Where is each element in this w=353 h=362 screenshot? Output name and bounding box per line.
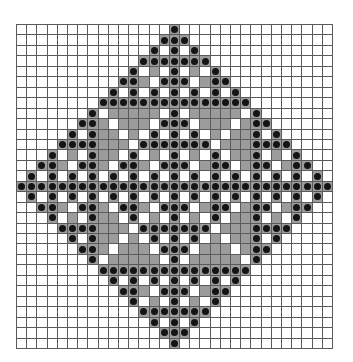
dot-cell	[149, 139, 159, 149]
empty-cell	[87, 55, 97, 65]
shaded-cell	[108, 212, 118, 222]
dot-cell	[250, 139, 260, 149]
empty-cell	[301, 87, 311, 97]
dot-cell	[149, 264, 159, 274]
shaded-cell	[230, 223, 240, 233]
empty-cell	[67, 296, 77, 306]
empty-cell	[250, 264, 260, 274]
dot-cell	[250, 223, 260, 233]
empty-cell	[26, 76, 36, 86]
dot-cell	[67, 139, 77, 149]
empty-cell	[322, 34, 332, 44]
empty-cell	[281, 149, 291, 159]
empty-cell	[250, 87, 260, 97]
dot-cell	[189, 233, 199, 243]
empty-cell	[312, 285, 322, 295]
empty-cell	[16, 97, 26, 107]
dot-cell	[220, 285, 230, 295]
empty-cell	[118, 317, 128, 327]
empty-cell	[128, 317, 138, 327]
dot-cell	[189, 181, 199, 191]
dot-cell	[169, 139, 179, 149]
dot-cell	[281, 139, 291, 149]
empty-cell	[36, 223, 46, 233]
empty-cell	[26, 264, 36, 274]
empty-cell	[291, 118, 301, 128]
empty-cell	[108, 24, 118, 34]
dot-cell	[281, 181, 291, 191]
dot-cell	[169, 254, 179, 264]
empty-cell	[118, 296, 128, 306]
dot-cell	[169, 97, 179, 107]
empty-cell	[16, 87, 26, 97]
empty-cell	[322, 338, 332, 348]
empty-cell	[159, 129, 169, 139]
empty-cell	[301, 34, 311, 44]
empty-cell	[199, 327, 209, 337]
empty-cell	[118, 233, 128, 243]
empty-cell	[57, 306, 67, 316]
empty-cell	[271, 285, 281, 295]
empty-cell	[179, 108, 189, 118]
empty-cell	[199, 45, 209, 55]
empty-cell	[250, 34, 260, 44]
shaded-cell	[271, 212, 281, 222]
shaded-cell	[230, 149, 240, 159]
empty-cell	[26, 55, 36, 65]
shaded-cell	[220, 108, 230, 118]
empty-cell	[230, 296, 240, 306]
empty-cell	[261, 275, 271, 285]
empty-cell	[261, 129, 271, 139]
dot-cell	[118, 97, 128, 107]
dot-cell	[210, 296, 220, 306]
dot-cell	[169, 55, 179, 65]
dot-cell	[108, 170, 118, 180]
dot-cell	[230, 87, 240, 97]
empty-cell	[138, 24, 148, 34]
empty-cell	[36, 87, 46, 97]
dot-cell	[210, 87, 220, 97]
empty-cell	[36, 327, 46, 337]
dot-cell	[230, 181, 240, 191]
empty-cell	[26, 243, 36, 253]
empty-cell	[322, 66, 332, 76]
dot-cell	[189, 275, 199, 285]
dot-cell	[47, 160, 57, 170]
empty-cell	[281, 45, 291, 55]
empty-cell	[250, 338, 260, 348]
empty-cell	[108, 118, 118, 128]
empty-cell	[322, 306, 332, 316]
dot-cell	[271, 223, 281, 233]
dot-cell	[77, 181, 87, 191]
dot-cell	[281, 223, 291, 233]
dot-cell	[128, 181, 138, 191]
empty-cell	[118, 338, 128, 348]
shaded-cell	[240, 139, 250, 149]
shaded-cell	[240, 129, 250, 139]
dot-cell	[250, 149, 260, 159]
empty-cell	[220, 170, 230, 180]
empty-cell	[16, 45, 26, 55]
dot-cell	[210, 160, 220, 170]
empty-cell	[312, 243, 322, 253]
dot-grid-diagram	[16, 24, 333, 349]
dot-cell	[57, 139, 67, 149]
empty-cell	[250, 45, 260, 55]
empty-cell	[322, 212, 332, 222]
empty-cell	[261, 233, 271, 243]
empty-cell	[26, 275, 36, 285]
empty-cell	[16, 129, 26, 139]
dot-cell	[159, 76, 169, 86]
empty-cell	[220, 338, 230, 348]
empty-cell	[26, 212, 36, 222]
empty-cell	[26, 97, 36, 107]
empty-cell	[312, 87, 322, 97]
dot-cell	[98, 97, 108, 107]
dot-cell	[77, 160, 87, 170]
dot-cell	[291, 160, 301, 170]
empty-cell	[67, 34, 77, 44]
empty-cell	[77, 317, 87, 327]
dot-cell	[210, 149, 220, 159]
shaded-cell	[199, 108, 209, 118]
empty-cell	[189, 160, 199, 170]
